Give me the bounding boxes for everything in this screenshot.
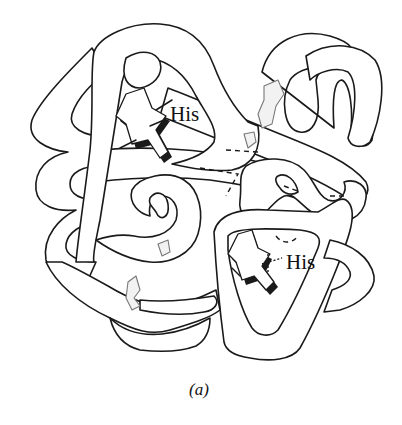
- his-label-lower: His: [286, 250, 315, 275]
- his-label-upper: His: [170, 102, 199, 127]
- tube-lower-left-flap: [140, 296, 217, 314]
- tube-s-coil-hole: [149, 193, 168, 217]
- hemoglobin-diagram: His His (a): [0, 0, 402, 425]
- tube-s-coil-left: [96, 175, 201, 262]
- heme-back-upper-right: [258, 80, 284, 128]
- tube-upper-left-inner: [124, 52, 161, 88]
- protein-tube-drawing: [0, 0, 402, 425]
- figure-caption: (a): [189, 380, 209, 400]
